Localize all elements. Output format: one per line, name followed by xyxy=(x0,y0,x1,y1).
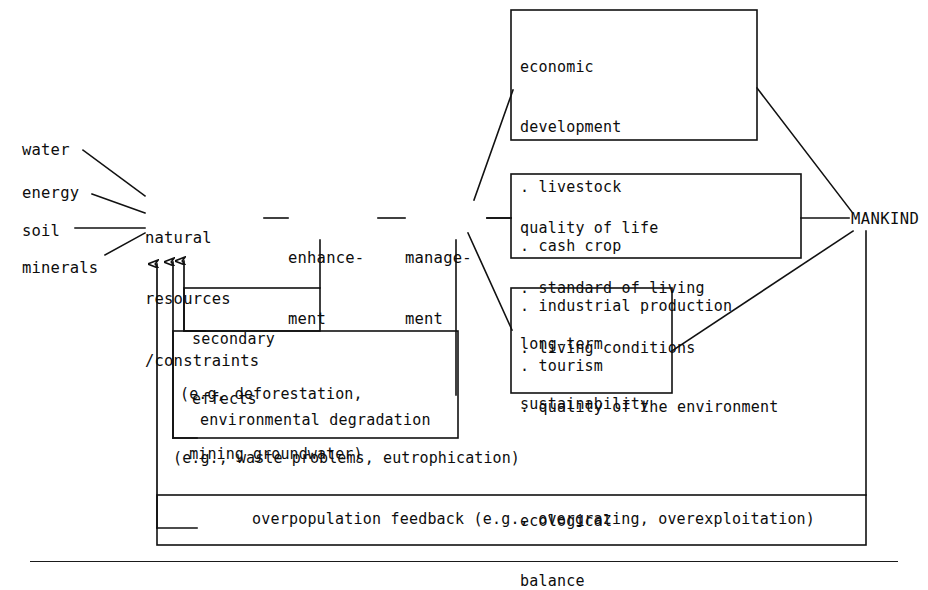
node-management-line2: ment xyxy=(405,309,472,329)
node-mankind: MANKIND xyxy=(851,209,919,229)
input-label-water: water xyxy=(22,140,70,160)
longterm-heading-line2: sustainability xyxy=(520,395,649,415)
wire-water-to-resources xyxy=(83,150,145,196)
wire-energy-to-resources xyxy=(92,194,145,213)
box-economic-development: economic development . livestock . cash … xyxy=(511,10,757,140)
longterm-heading-line1: long-term xyxy=(520,335,649,355)
note-secondary-line1: (e.g, deforestation, xyxy=(180,384,363,404)
label-overpopulation-feedback: overpopulation feedback (e.g., overgrazi… xyxy=(252,510,815,530)
wire-minerals-to-resources xyxy=(105,233,145,255)
label-environmental-degradation: environmental degradation xyxy=(200,411,431,431)
input-label-minerals: minerals xyxy=(22,258,98,278)
box-quality-of-life: quality of life . standard of living . l… xyxy=(511,174,801,258)
economic-heading-line2: development xyxy=(520,118,732,138)
input-label-soil: soil xyxy=(22,221,60,241)
node-enhancement-line1: enhance- xyxy=(288,248,364,268)
note-environmental-degradation: (e.g., waste problems, eutrophication) xyxy=(173,448,520,468)
input-label-energy: energy xyxy=(22,183,79,203)
longterm-bullet-3: balance xyxy=(520,572,649,590)
longterm-spacer xyxy=(520,455,649,473)
quality-heading-line1: quality of life xyxy=(520,219,778,239)
node-management-line1: manage- xyxy=(405,248,472,268)
node-natural-resources-line1: natural xyxy=(145,228,259,248)
box-long-term-sustainability: long-term sustainability ecological bala… xyxy=(511,288,672,393)
wire-management-to-longterm xyxy=(468,233,512,330)
box-secondary-effects: secondary effects xyxy=(184,288,320,331)
node-management: manage- ment xyxy=(405,207,472,371)
wire-management-to-economic xyxy=(474,90,513,200)
footer-rule xyxy=(30,561,898,562)
economic-heading-line1: economic xyxy=(520,58,732,78)
